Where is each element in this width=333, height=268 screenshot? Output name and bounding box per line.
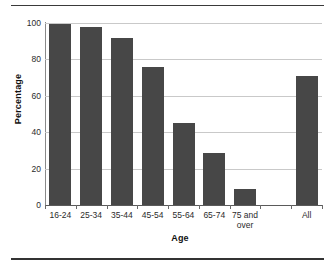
x-tick-mark bbox=[260, 205, 261, 209]
bar bbox=[142, 67, 164, 205]
x-tick-mark bbox=[322, 205, 323, 209]
gridline bbox=[45, 23, 322, 24]
x-tick-mark bbox=[291, 205, 292, 209]
x-tick-mark bbox=[230, 205, 231, 209]
bottom-divider-rule bbox=[11, 258, 324, 260]
x-axis-title: Age bbox=[120, 233, 240, 243]
bar-chart-figure: Percentage 020406080100 16-2425-3435-444… bbox=[0, 0, 333, 268]
bar bbox=[173, 123, 195, 205]
gridline bbox=[45, 205, 322, 206]
bar bbox=[234, 189, 256, 205]
y-tick-label: 100 bbox=[15, 19, 41, 28]
x-tick-mark bbox=[137, 205, 138, 209]
top-divider-rule bbox=[11, 5, 324, 6]
x-tick-label: 75 and over bbox=[226, 210, 265, 230]
y-tick-label: 40 bbox=[15, 128, 41, 137]
x-tick-mark bbox=[45, 205, 46, 209]
x-tick-mark bbox=[76, 205, 77, 209]
bar bbox=[203, 153, 225, 205]
y-axis-tick-group: 020406080100 bbox=[11, 0, 41, 268]
x-tick-mark bbox=[107, 205, 108, 209]
bar bbox=[80, 27, 102, 205]
y-tick-label: 60 bbox=[15, 92, 41, 101]
plot-area bbox=[45, 23, 322, 205]
bar bbox=[49, 24, 71, 205]
x-tick-mark bbox=[168, 205, 169, 209]
y-tick-label: 0 bbox=[15, 201, 41, 210]
bar bbox=[111, 38, 133, 205]
bar bbox=[296, 76, 318, 205]
y-tick-label: 20 bbox=[15, 165, 41, 174]
y-tick-label: 80 bbox=[15, 55, 41, 64]
x-tick-mark bbox=[199, 205, 200, 209]
x-tick-label: All bbox=[287, 210, 326, 220]
